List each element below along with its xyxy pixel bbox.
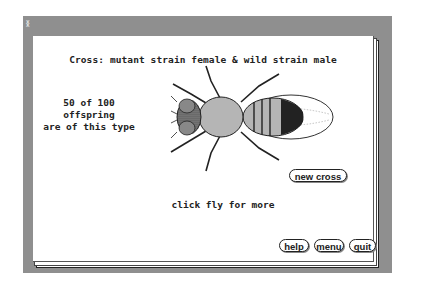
- menu-button[interactable]: menu: [314, 239, 344, 252]
- card: Cross: mutant strain female & wild strai…: [33, 36, 374, 262]
- offspring-count: 50 of 100 offspring: [35, 97, 143, 121]
- click-fly-hint: click fly for more: [158, 199, 288, 210]
- fly-thorax: [199, 97, 243, 137]
- help-button[interactable]: help: [279, 239, 309, 252]
- offspring-info: 50 of 100 offspring are of this type: [35, 97, 143, 133]
- fly-icon[interactable]: [141, 56, 341, 186]
- close-box-icon[interactable]: ⁑: [26, 20, 31, 28]
- offspring-type: are of this type: [35, 121, 143, 133]
- new-cross-button[interactable]: new cross: [289, 169, 347, 182]
- quit-button[interactable]: quit: [349, 239, 376, 252]
- fly-eye-right: [179, 121, 195, 135]
- fly-eye-left: [179, 99, 195, 113]
